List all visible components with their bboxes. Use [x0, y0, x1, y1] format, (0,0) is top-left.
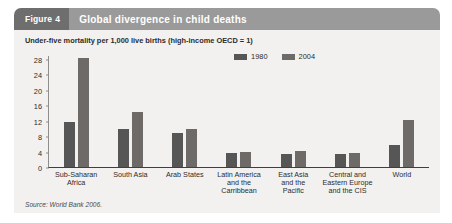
bar-group — [375, 56, 429, 168]
bar-group — [49, 56, 103, 168]
y-axis-tick-label: 28 — [34, 55, 42, 64]
y-axis-tick-mark — [46, 121, 49, 122]
bar-group — [320, 56, 374, 168]
y-axis-tick-mark — [46, 106, 49, 107]
bar — [186, 129, 197, 168]
bar — [172, 133, 183, 168]
y-axis-tick-mark — [46, 137, 49, 138]
y-axis-tick-label: 20 — [34, 86, 42, 95]
bar — [78, 58, 89, 168]
chart-subtitle: Under-five mortality per 1,000 live birt… — [25, 36, 253, 45]
x-axis-category-label: Central and Eastern Europe and the CIS — [320, 171, 374, 196]
y-axis-tick-label: 24 — [34, 71, 42, 80]
bar-group — [266, 56, 320, 168]
x-axis-category-label: Latin America and the Carribbean — [212, 171, 266, 196]
bar — [389, 145, 400, 168]
bar-groups-container — [49, 56, 429, 168]
y-axis-tick-label: 8 — [38, 133, 42, 142]
figure-number-badge: Figure 4 — [14, 8, 69, 30]
x-axis-category-label: World — [375, 171, 429, 196]
x-axis-category-label: Arab States — [158, 171, 212, 196]
figure-header-bar: Figure 4 Global divergence in child deat… — [14, 8, 440, 30]
y-axis-tick-mark — [46, 75, 49, 76]
figure-title: Global divergence in child deaths — [69, 8, 440, 30]
x-axis-labels: Sub-Saharan AfricaSouth AsiaArab StatesL… — [49, 171, 429, 196]
bar-group — [103, 56, 157, 168]
x-axis-category-label: Sub-Saharan Africa — [49, 171, 103, 196]
y-axis-tick-label: 4 — [38, 148, 42, 157]
figure-panel: Figure 4 Global divergence in child deat… — [14, 8, 440, 213]
figure-tag-number: 4 — [55, 14, 60, 24]
bar — [132, 112, 143, 168]
y-axis-tick-mark — [46, 168, 49, 169]
y-axis: 0481216202428 — [25, 56, 45, 168]
y-axis-tick-label: 12 — [34, 117, 42, 126]
bar — [64, 122, 75, 168]
figure-tag-label: Figure — [25, 14, 52, 24]
bar — [403, 120, 414, 168]
x-axis-baseline — [48, 167, 429, 169]
x-axis-category-label: East Asia and the Pacific — [266, 171, 320, 196]
y-axis-tick-label: 0 — [38, 164, 42, 173]
y-axis-tick-label: 16 — [34, 102, 42, 111]
source-note: Source: World Bank 2006. — [25, 201, 102, 208]
bar — [295, 151, 306, 168]
bar-group — [212, 56, 266, 168]
plot-area: 0481216202428 — [25, 56, 429, 168]
x-axis-category-label: South Asia — [103, 171, 157, 196]
y-axis-tick-mark — [46, 152, 49, 153]
bar — [118, 129, 129, 168]
y-axis-tick-mark — [46, 90, 49, 91]
bar-group — [158, 56, 212, 168]
y-axis-tick-mark — [46, 59, 49, 60]
